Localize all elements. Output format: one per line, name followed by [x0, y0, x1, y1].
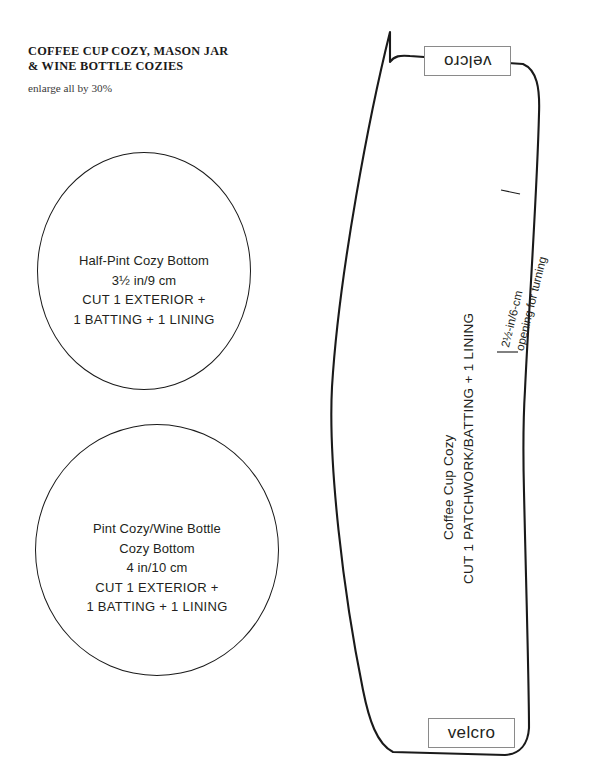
- pattern-piece-half-pint-bottom: Half-Pint Cozy Bottom 3½ in/9 cm CUT 1 E…: [37, 152, 251, 390]
- coffee-cup-cozy-outline: [315, 22, 595, 780]
- pint-bottom-cut-line-1: CUT 1 EXTERIOR +: [36, 578, 278, 598]
- pint-bottom-name-line-1: Pint Cozy/Wine Bottle: [36, 519, 278, 539]
- pattern-piece-pint-bottom: Pint Cozy/Wine Bottle Cozy Bottom 4 in/1…: [35, 424, 279, 676]
- coffee-cup-cozy-name: Coffee Cup Cozy: [441, 434, 456, 540]
- page-title-line-1: COFFEE CUP COZY, MASON JAR: [28, 44, 228, 58]
- half-pint-bottom-cut-line-1: CUT 1 EXTERIOR +: [38, 290, 250, 310]
- title-block: COFFEE CUP COZY, MASON JAR & WINE BOTTLE…: [28, 44, 288, 95]
- cozy-body-path: [331, 32, 539, 755]
- half-pint-bottom-cut-line-2: 1 BATTING + 1 LINING: [38, 310, 250, 330]
- pint-bottom-cut-line-2: 1 BATTING + 1 LINING: [36, 597, 278, 617]
- pint-bottom-name-line-2: Cozy Bottom: [36, 539, 278, 559]
- half-pint-bottom-name: Half-Pint Cozy Bottom: [38, 251, 250, 271]
- pint-bottom-label: Pint Cozy/Wine Bottle Cozy Bottom 4 in/1…: [36, 519, 278, 617]
- page-title: COFFEE CUP COZY, MASON JAR & WINE BOTTLE…: [28, 44, 288, 74]
- velcro-top-label: velcro: [444, 51, 492, 71]
- half-pint-bottom-label: Half-Pint Cozy Bottom 3½ in/9 cm CUT 1 E…: [38, 251, 250, 329]
- coffee-cup-cozy-cut-instruction: CUT 1 PATCHWORK/BATTING + 1 LINING: [461, 313, 476, 584]
- pint-bottom-dimension: 4 in/10 cm: [36, 558, 278, 578]
- velcro-placement-bottom: velcro: [428, 718, 515, 748]
- page-title-line-2: & WINE BOTTLE COZIES: [28, 59, 183, 73]
- half-pint-bottom-dimension: 3½ in/9 cm: [38, 271, 250, 291]
- velcro-bottom-label: velcro: [448, 723, 496, 743]
- pattern-piece-coffee-cup-cozy: [315, 22, 595, 780]
- velcro-placement-top: velcro: [424, 46, 511, 76]
- page-subtitle: enlarge all by 30%: [28, 81, 288, 95]
